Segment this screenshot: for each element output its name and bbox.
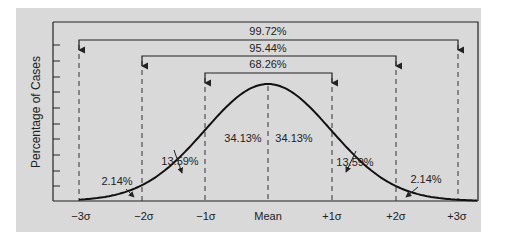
y-axis-label: Percentage of Cases [29, 56, 43, 168]
x-tick-p2: +2σ [386, 210, 406, 222]
x-tick-p3: +3σ [447, 210, 467, 222]
bracket-1sd [205, 73, 332, 83]
region-label-p1-p2: 13.59% [336, 156, 374, 168]
x-tick-mean: Mean [254, 210, 282, 222]
region-label-p2-p3: 2.14% [410, 173, 441, 185]
normal-distribution-chart: 99.72% 95.44% 68.26% 34.13% 34.13% 13.59… [0, 0, 513, 246]
y-ticks [53, 45, 60, 186]
region-label-m3-m2: 2.14% [101, 175, 132, 187]
region-label-m1-0: 34.13% [224, 132, 262, 144]
region-label-m2-m1: 13.59% [161, 155, 199, 167]
bracket-3sd-label: 99.72% [249, 25, 287, 37]
x-tick-m1: −1σ [196, 210, 216, 222]
bracket-2sd-label: 95.44% [249, 42, 287, 54]
x-tick-m3: −3σ [71, 210, 91, 222]
x-tick-p1: +1σ [322, 210, 342, 222]
bracket-1sd-label: 68.26% [249, 58, 287, 70]
x-tick-m2: −2σ [134, 210, 154, 222]
region-label-0-p1: 34.13% [275, 132, 313, 144]
